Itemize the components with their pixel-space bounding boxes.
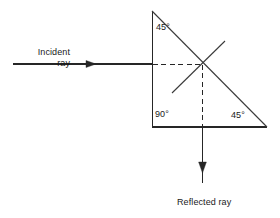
angle-label-bottom-left: 90° <box>155 109 169 120</box>
normal-line <box>172 41 225 93</box>
reflected-ray <box>199 127 207 183</box>
diagram-canvas <box>0 0 280 218</box>
incident-ray-arrowhead <box>86 61 96 68</box>
reflected-ray-label: Reflected ray <box>177 197 231 208</box>
incident-ray-label-line1: Incident <box>38 47 70 57</box>
reflected-ray-arrowhead <box>199 162 207 173</box>
angle-label-top: 45° <box>156 22 170 33</box>
incident-ray-label-line2: ray <box>8 58 70 69</box>
prism-reflection-diagram: Incident ray Reflected ray 45° 90° 45° <box>0 0 280 218</box>
incident-ray-label: Incident ray <box>8 47 70 68</box>
angle-label-bottom-right: 45° <box>231 110 245 121</box>
